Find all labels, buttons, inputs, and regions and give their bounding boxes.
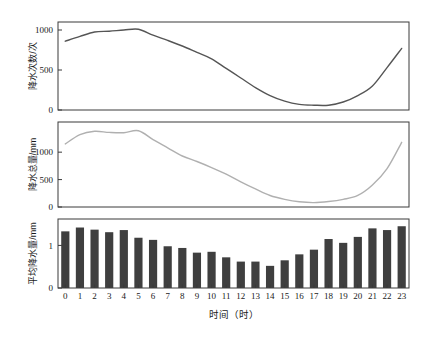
y-axis-label-bottom: 平均降水量/mm bbox=[27, 222, 38, 285]
bar-hour-2 bbox=[90, 230, 98, 288]
series-line-top bbox=[65, 29, 401, 106]
x-tick-label-1: 1 bbox=[78, 291, 83, 301]
bar-hour-21 bbox=[368, 228, 376, 288]
x-tick-label-18: 18 bbox=[324, 291, 334, 301]
x-tick-label-22: 22 bbox=[383, 291, 392, 301]
bar-hour-23 bbox=[398, 226, 406, 288]
plot-frame-middle bbox=[58, 122, 409, 207]
y-tick-label-top-1: 500 bbox=[40, 65, 54, 75]
panel-top: 05001000降水次数/次 bbox=[27, 22, 409, 115]
bar-hour-22 bbox=[383, 230, 391, 288]
x-tick-label-21: 21 bbox=[368, 291, 377, 301]
x-tick-label-13: 13 bbox=[251, 291, 261, 301]
bar-hour-5 bbox=[134, 238, 142, 288]
bar-hour-7 bbox=[164, 246, 172, 288]
y-axis-label-middle: 降水总量/mm bbox=[27, 138, 38, 192]
panel-bottom: 01平均降水量/mm012345678910111213141516171819… bbox=[27, 219, 409, 320]
bar-hour-19 bbox=[339, 243, 347, 288]
y-axis-label-top: 降水次数/次 bbox=[27, 42, 38, 90]
x-tick-label-17: 17 bbox=[309, 291, 319, 301]
bar-hour-15 bbox=[281, 260, 289, 288]
x-tick-label-5: 5 bbox=[136, 291, 141, 301]
bar-hour-16 bbox=[295, 254, 303, 288]
x-tick-label-11: 11 bbox=[222, 291, 231, 301]
bar-hour-10 bbox=[207, 252, 215, 288]
x-tick-label-2: 2 bbox=[92, 291, 97, 301]
x-tick-label-4: 4 bbox=[122, 291, 127, 301]
x-tick-label-7: 7 bbox=[165, 291, 170, 301]
x-tick-label-12: 12 bbox=[236, 291, 245, 301]
bar-hour-18 bbox=[324, 239, 332, 288]
y-tick-label-top-2: 1000 bbox=[35, 25, 54, 35]
panel-middle: 05001000降水总量/mm bbox=[27, 122, 409, 212]
x-tick-label-16: 16 bbox=[295, 291, 305, 301]
x-tick-label-23: 23 bbox=[397, 291, 407, 301]
y-tick-label-bottom-1: 1 bbox=[49, 241, 54, 251]
x-tick-label-20: 20 bbox=[353, 291, 363, 301]
x-tick-label-9: 9 bbox=[195, 291, 200, 301]
bar-hour-11 bbox=[222, 257, 230, 288]
y-tick-label-middle-0: 0 bbox=[49, 202, 54, 212]
bar-hour-13 bbox=[251, 262, 259, 288]
y-tick-label-bottom-0: 0 bbox=[49, 283, 54, 293]
bar-hour-4 bbox=[120, 230, 128, 288]
bar-hour-20 bbox=[354, 237, 362, 288]
x-tick-label-15: 15 bbox=[280, 291, 290, 301]
bar-hour-6 bbox=[149, 240, 157, 288]
x-tick-label-0: 0 bbox=[63, 291, 68, 301]
bar-hour-8 bbox=[178, 248, 186, 288]
precipitation-diurnal-figure: 05001000降水次数/次05001000降水总量/mm01平均降水量/mm0… bbox=[0, 0, 426, 344]
x-tick-label-6: 6 bbox=[151, 291, 156, 301]
y-tick-label-top-0: 0 bbox=[49, 105, 54, 115]
bar-hour-0 bbox=[61, 231, 69, 288]
x-tick-label-19: 19 bbox=[339, 291, 349, 301]
bar-hour-3 bbox=[105, 232, 113, 288]
x-tick-label-3: 3 bbox=[107, 291, 112, 301]
x-axis-label: 时间（时） bbox=[209, 309, 259, 320]
series-line-middle bbox=[65, 130, 401, 202]
bar-hour-1 bbox=[76, 228, 84, 288]
x-tick-label-8: 8 bbox=[180, 291, 185, 301]
x-tick-label-14: 14 bbox=[266, 291, 276, 301]
bar-hour-17 bbox=[310, 250, 318, 288]
bar-hour-9 bbox=[193, 253, 201, 288]
x-tick-label-10: 10 bbox=[207, 291, 217, 301]
bar-hour-12 bbox=[237, 262, 245, 288]
chart-canvas: 05001000降水次数/次05001000降水总量/mm01平均降水量/mm0… bbox=[0, 0, 426, 344]
y-tick-label-middle-1: 500 bbox=[40, 175, 54, 185]
